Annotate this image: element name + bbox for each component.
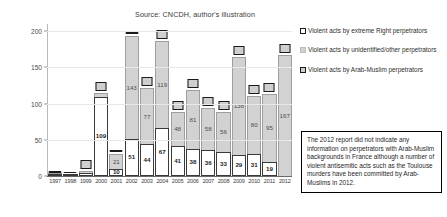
x-axis-tick-label: 2009 (232, 178, 246, 192)
x-axis-tick-label: 2002 (125, 178, 139, 192)
bar-segment-extreme-right-label: 38 (189, 159, 196, 165)
bar-segment-other[interactable]: 143 (125, 36, 139, 140)
bar-segment-other[interactable]: 56 (216, 112, 230, 153)
bar-segment-extreme-right[interactable]: 33 (216, 152, 230, 176)
bar-column[interactable] (79, 24, 93, 176)
bar-segment-extreme-right-label: 10 (113, 169, 120, 175)
legend-swatch-icon (300, 47, 306, 53)
x-axis: 1997199819992000200120022003200420052006… (48, 178, 292, 192)
annotation-note-box: The 2012 report did not indicate any inf… (301, 131, 442, 193)
arab-muslim-marker (64, 170, 77, 173)
bar-segment-extreme-right[interactable]: 10 (109, 169, 123, 176)
bar-segment-extreme-right-label: 109 (96, 133, 106, 139)
bar-column[interactable]: 7744 (140, 24, 154, 176)
arab-muslim-marker (264, 83, 275, 92)
bar-column[interactable]: 167 (278, 24, 292, 176)
arab-muslim-marker (110, 149, 123, 152)
x-axis-line (47, 176, 292, 177)
bar-column[interactable]: 5836 (201, 24, 215, 176)
bar-segment-other-label: 58 (205, 126, 212, 132)
bar-segment-extreme-right-label: 31 (251, 162, 258, 168)
bar-column[interactable]: 11967 (155, 24, 169, 176)
bar-segment-extreme-right-label: 41 (174, 158, 181, 164)
bar-segment-extreme-right[interactable]: 44 (140, 144, 154, 176)
x-axis-tick-label: 2001 (109, 178, 123, 192)
x-axis-tick-label: 2010 (247, 178, 261, 192)
bar-segment-other[interactable]: 58 (201, 108, 215, 150)
bar-segment-extreme-right-label: 33 (220, 161, 227, 167)
x-axis-tick-label: 2012 (278, 178, 292, 192)
bar-segment-extreme-right[interactable]: 67 (155, 128, 169, 176)
annotation-note-text: The 2012 report did not indicate any inf… (307, 136, 436, 188)
bar-column[interactable]: 5633 (216, 24, 230, 176)
grid-line (47, 140, 292, 141)
bar-segment-other[interactable]: 48 (171, 112, 185, 147)
bar-segment-extreme-right-label: 51 (128, 154, 135, 160)
y-axis-tick-label: 50 (35, 136, 42, 143)
bar-column[interactable]: 9519 (262, 24, 276, 176)
bar-group: 1092110143517744119674841813858365633138… (48, 24, 292, 176)
bar-column[interactable]: 4841 (171, 24, 185, 176)
x-axis-tick-label: 1998 (63, 178, 77, 192)
bar-column[interactable]: 13829 (232, 24, 246, 176)
bar-column[interactable]: 2110 (109, 24, 123, 176)
bar-segment-other-label: 167 (280, 113, 290, 119)
legend-item[interactable]: Violent acts by unidentified/other perpe… (300, 46, 445, 54)
bar-column[interactable]: 109 (94, 24, 108, 176)
bar-segment-extreme-right[interactable] (79, 173, 93, 176)
arab-muslim-marker (203, 97, 214, 106)
arab-muslim-marker (141, 77, 152, 86)
bar-segment-other-label: 80 (251, 122, 258, 128)
x-axis-tick-label: 2008 (216, 178, 230, 192)
bar-column[interactable]: 8138 (186, 24, 200, 176)
legend-swatch-icon (300, 67, 306, 73)
bar-column[interactable]: 8031 (247, 24, 261, 176)
bar-column[interactable]: 14351 (125, 24, 139, 176)
bar-segment-other-label: 21 (113, 159, 120, 165)
bar-segment-other[interactable]: 77 (140, 88, 154, 144)
bar-segment-other[interactable]: 119 (155, 41, 169, 127)
legend-swatch-icon (300, 28, 306, 34)
bar-segment-extreme-right[interactable]: 38 (186, 149, 200, 177)
x-axis-tick-label: 1999 (79, 178, 93, 192)
bar-segment-extreme-right-label: 44 (144, 157, 151, 163)
bar-segment-extreme-right-label: 67 (159, 149, 166, 155)
legend-item[interactable]: Violent acts by extreme Right perpetrato… (300, 27, 445, 35)
x-axis-tick-label: 2003 (140, 178, 154, 192)
chart-legend: Violent acts by extreme Right perpetrato… (300, 27, 445, 85)
bar-segment-extreme-right-label: 19 (266, 166, 273, 172)
y-axis: 050100150200 (24, 24, 44, 176)
bar-column[interactable] (48, 24, 62, 176)
bar-segment-extreme-right[interactable] (63, 174, 77, 176)
arab-muslim-marker (218, 101, 229, 110)
bar-segment-other[interactable]: 21 (109, 154, 123, 169)
bar-segment-other-label: 81 (189, 117, 196, 123)
bar-segment-extreme-right[interactable]: 29 (232, 155, 246, 176)
bar-column[interactable] (63, 24, 77, 176)
bar-segment-extreme-right[interactable]: 31 (247, 154, 261, 176)
arab-muslim-marker (279, 44, 290, 53)
bar-segment-extreme-right[interactable]: 109 (94, 97, 108, 176)
bar-segment-other[interactable]: 167 (278, 55, 292, 176)
bar-segment-extreme-right[interactable]: 36 (201, 150, 215, 176)
arab-muslim-marker (249, 85, 260, 94)
legend-item[interactable]: Violent acts by Arab-Muslim perpetrators (300, 66, 445, 74)
arab-muslim-marker (187, 79, 198, 88)
arab-muslim-marker (233, 46, 244, 55)
bar-segment-extreme-right-label: 29 (235, 162, 242, 168)
y-axis-tick-mark (44, 176, 47, 177)
x-axis-tick-label: 2006 (186, 178, 200, 192)
grid-line (47, 67, 292, 68)
bar-segment-other-label: 95 (266, 125, 273, 131)
legend-item-label: Violent acts by unidentified/other perpe… (308, 46, 436, 54)
legend-item-label: Violent acts by extreme Right perpetrato… (308, 27, 427, 35)
grid-line (47, 31, 292, 32)
bar-segment-extreme-right[interactable] (48, 174, 62, 176)
bar-segment-other-label: 119 (157, 82, 167, 88)
bar-segment-extreme-right[interactable]: 41 (171, 146, 185, 176)
bar-segment-extreme-right[interactable]: 51 (125, 139, 139, 176)
bar-segment-extreme-right[interactable]: 19 (262, 162, 276, 176)
x-axis-tick-label: 1997 (48, 178, 62, 192)
arab-muslim-marker (96, 82, 107, 91)
bar-segment-other-label: 77 (144, 114, 151, 120)
